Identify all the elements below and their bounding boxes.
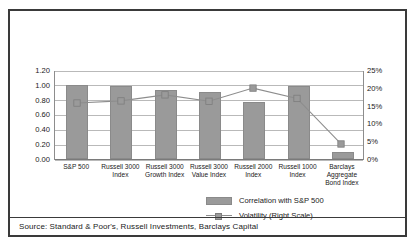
legend-label-volatility: Volatility (Right Scale)	[239, 211, 313, 220]
line-swatch-icon	[206, 212, 232, 220]
left-axis-tick: 0.00	[35, 156, 50, 163]
category-axis-labels: S&P 500Russell 3000IndexRussell 3000Grow…	[54, 163, 364, 197]
category-label: BarclaysAggregateBond Index	[316, 163, 368, 188]
volatility-marker	[206, 98, 212, 104]
left-axis-tick: 0.40	[35, 126, 50, 133]
volatility-marker	[294, 95, 300, 101]
volatility-marker	[338, 140, 344, 146]
volatility-line-series	[55, 71, 363, 160]
left-axis-tick: 1.20	[35, 67, 50, 74]
right-axis-tick-labels: 25% 20% 15% 10% 5% 0%	[367, 67, 397, 163]
legend-label-correlation: Correlation with S&P 500	[239, 196, 324, 205]
chart-plot-area: 1.20 1.00 0.80 0.60 0.40 0.20 0.00 25% 2…	[10, 11, 405, 206]
volatility-marker	[74, 99, 80, 105]
gridline	[55, 160, 363, 161]
chart-figure: 1.20 1.00 0.80 0.60 0.40 0.20 0.00 25% 2…	[8, 9, 407, 237]
left-axis-tick: 0.20	[35, 141, 50, 148]
chart-legend: Correlation with S&P 500 Volatility (Rig…	[206, 193, 396, 223]
left-axis-tick: 1.00	[35, 82, 50, 89]
volatility-marker	[118, 97, 124, 103]
left-axis-tick: 0.60	[35, 111, 50, 118]
legend-item-volatility: Volatility (Right Scale)	[206, 208, 396, 223]
right-axis-tick: 20%	[367, 85, 382, 92]
plot-box	[54, 71, 364, 160]
right-axis-tick: 0%	[367, 156, 378, 163]
footer-divider	[10, 217, 405, 218]
right-axis-tick: 15%	[367, 103, 382, 110]
volatility-marker	[162, 91, 168, 97]
source-note: Source: Standard & Poor's, Russell Inves…	[19, 222, 258, 231]
right-axis-tick: 5%	[367, 138, 378, 145]
volatility-line	[77, 88, 341, 144]
left-axis-tick: 0.80	[35, 97, 50, 104]
volatility-marker	[250, 84, 256, 90]
right-axis-tick: 25%	[367, 67, 382, 74]
legend-item-correlation: Correlation with S&P 500	[206, 193, 396, 208]
bar-swatch-icon	[206, 197, 232, 205]
right-axis-tick: 10%	[367, 120, 382, 127]
left-axis-tick-labels: 1.20 1.00 0.80 0.60 0.40 0.20 0.00	[16, 67, 50, 163]
